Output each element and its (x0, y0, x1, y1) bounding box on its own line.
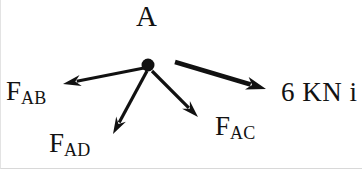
force-fac-label: FAC (215, 113, 255, 142)
applied-force-magnitude-label: 6 KN i (281, 79, 358, 106)
vector-shaft-f-ac (152, 71, 189, 108)
vector-shaft-applied-force-6kn (175, 62, 251, 84)
force-fab-base: F (6, 76, 21, 106)
force-fad-subscript: AD (64, 140, 90, 160)
force-fac-subscript: AC (230, 123, 255, 143)
force-fab-label: FAB (6, 78, 46, 107)
force-fac-base: F (215, 111, 230, 141)
applied-force-magnitude-text: 6 KN i (281, 77, 358, 107)
force-fab-subscript: AB (21, 88, 46, 108)
force-fad-base: F (49, 128, 64, 158)
point-a-text: A (136, 0, 157, 32)
joint-node-a-dot (142, 59, 155, 72)
point-a-label: A (136, 2, 157, 31)
force-fad-label: FAD (49, 130, 90, 159)
free-body-diagram: A FAB FAD FAC 6 KN i (0, 0, 362, 169)
vector-shaft-f-ab (77, 68, 144, 81)
vector-shaft-f-ad (119, 71, 147, 123)
